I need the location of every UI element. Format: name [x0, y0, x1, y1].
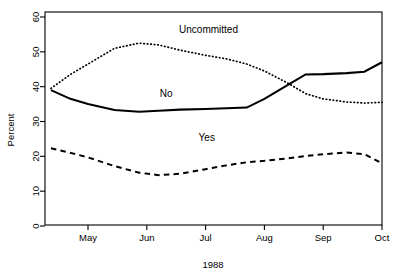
- series-label-uncommitted: Uncommitted: [179, 24, 238, 35]
- x-tick-label-aug: Aug: [256, 232, 273, 243]
- x-tick-label-jun: Jun: [139, 232, 154, 243]
- series-label-no: No: [160, 88, 173, 99]
- x-tick-label-oct: Oct: [375, 232, 390, 243]
- line-chart: 0102030405060 MayJunJulAugSepOct Percent…: [0, 0, 401, 276]
- data-series-group: [51, 43, 382, 175]
- y-tick-label-60: 60: [30, 12, 41, 23]
- x-tick-label-sep: Sep: [315, 232, 332, 243]
- y-tick-label-30: 30: [30, 116, 41, 127]
- y-tick-label-10: 10: [30, 186, 41, 197]
- series-line-no: [51, 62, 382, 111]
- y-tick-label-0: 0: [30, 223, 41, 228]
- y-tick-label-40: 40: [30, 81, 41, 92]
- plot-frame: [45, 12, 382, 225]
- y-tick-label-50: 50: [30, 47, 41, 58]
- y-axis-title: Percent: [5, 113, 16, 146]
- y-axis-tick-labels: 0102030405060: [30, 12, 41, 229]
- x-axis-tick-labels: MayJunJulAugSepOct: [79, 232, 390, 243]
- x-axis-ticks: [88, 225, 382, 230]
- x-tick-label-may: May: [79, 232, 97, 243]
- series-annotation-labels: UncommittedNoYes: [160, 24, 238, 143]
- x-axis-title: 1988: [202, 259, 223, 270]
- series-label-yes: Yes: [199, 132, 215, 143]
- chart-svg: 0102030405060 MayJunJulAugSepOct Percent…: [0, 0, 401, 276]
- x-tick-label-jul: Jul: [200, 232, 212, 243]
- series-line-yes: [51, 148, 382, 175]
- y-tick-label-20: 20: [30, 151, 41, 162]
